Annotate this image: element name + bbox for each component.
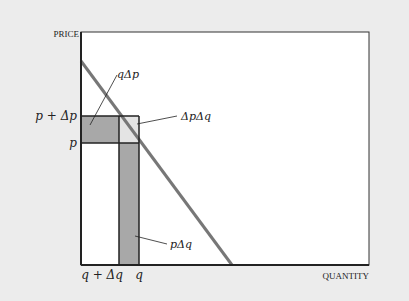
delta-p-delta-q-region <box>119 116 139 143</box>
q-delta-p-region <box>81 116 119 143</box>
tick-q-plus-dq: q + Δq <box>81 268 123 282</box>
demand-revenue-diagram: PRICE QUANTITY p + Δp p q + Δq q qΔp ΔpΔ… <box>0 0 409 301</box>
tick-p-plus-dp: p + Δp <box>35 109 77 123</box>
annotation-q-delta-p: qΔp <box>117 68 139 81</box>
tick-q: q <box>135 268 143 282</box>
x-axis-label: QUANTITY <box>323 271 370 281</box>
annotation-p-delta-q: pΔq <box>170 238 192 251</box>
y-axis-label: PRICE <box>53 29 79 39</box>
annotation-delta-p-delta-q: ΔpΔq <box>180 110 211 123</box>
tick-p: p <box>69 136 77 150</box>
p-delta-q-region <box>119 143 139 265</box>
